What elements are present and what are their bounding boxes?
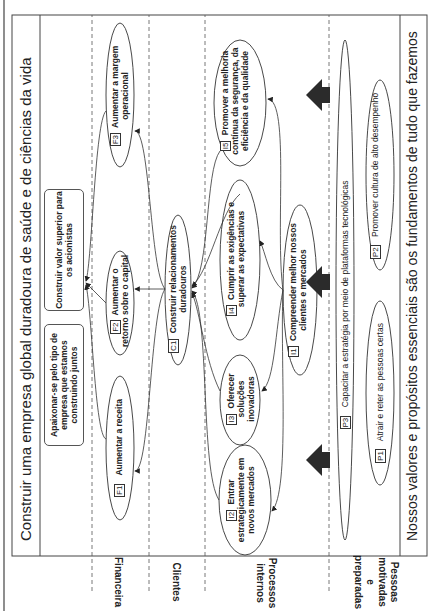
objective-i5: I5 Promover a melhoria contínua da segur… [220, 41, 250, 161]
vision-box-passion-text: Apaixonar-se pelo tipo de empresa que es… [49, 325, 79, 445]
objective-code: F1 [114, 484, 125, 497]
objective-text: Compreender melhor nossos clientes e mer… [288, 223, 308, 341]
objective-p3: P3 Capacitar a estratégia por meio de pl… [340, 75, 350, 535]
perspective-pessoas: Pessoas motivadas e preparadas [352, 555, 400, 609]
objective-code: I5 [220, 141, 231, 152]
objective-text: Atrair e reter as pessoas certas [375, 323, 385, 441]
objective-f1: F1 Aumentar a receita [114, 385, 124, 511]
page-title: Construir uma empresa global duradoura d… [17, 57, 34, 541]
objective-text: Cumprir as exigências e superar as expec… [226, 202, 246, 307]
objective-text: Aumentar a margem operacional [110, 46, 130, 128]
objective-f3: F3 Aumentar a margem operacional [110, 36, 130, 156]
vision-box-passion: Apaixonar-se pelo tipo de empresa que es… [44, 324, 84, 446]
perspective-processos-internos: Processos internos [254, 555, 278, 611]
big-arrow-icon [306, 79, 330, 111]
objective-text: Capacitar a estratégia por meio de plata… [340, 181, 350, 408]
objective-code: C1 [168, 339, 179, 353]
objective-i1: I1 Compreender melhor nossos clientes e … [288, 209, 308, 371]
objective-c1: C1 Construir relacionamentos duradouros [168, 219, 188, 359]
objective-text: Construir relacionamentos duradouros [168, 225, 188, 333]
objective-code: F2 [110, 320, 121, 333]
objective-code: I2 [226, 510, 237, 521]
objective-i2: I2 Entrar estrategicamente em novos merc… [226, 449, 256, 551]
objective-code: P2 [370, 245, 381, 259]
footer-values: Nossos valores e propósitos essenciais s… [404, 31, 420, 541]
vision-box-shareholder-value: Construir valor superior para os acionis… [44, 189, 84, 311]
objective-text: Entrar estrategicamente em novos mercado… [226, 458, 256, 543]
perspective-financeira: Financeira [112, 557, 124, 607]
objective-code: I1 [288, 346, 299, 357]
objective-f2: F2 Aumentar o retorno sobre o capital [110, 253, 130, 349]
objective-text: Promover cultura de alto desempenho [370, 93, 380, 237]
objective-text: Promover a melhoria contínua da seguranç… [220, 47, 250, 154]
objective-p2: P2 Promover cultura de alto desempenho [370, 91, 380, 261]
objective-p1: P1 Atrair e reter as pessoas certas [375, 305, 385, 481]
strategy-map: Construir uma empresa global duradoura d… [0, 0, 440, 611]
objective-code: I4 [226, 305, 237, 316]
objective-text: Aumentar a receita [114, 399, 124, 476]
objective-code: P3 [340, 416, 351, 430]
objective-code: I3 [226, 414, 237, 425]
perspective-clientes: Clientes [170, 557, 182, 607]
objective-i4: I4 Cumprir as exigências e superar as ex… [226, 189, 246, 329]
big-arrow-icon [306, 444, 330, 476]
objective-code: P1 [375, 449, 386, 463]
objective-i3: I3 Oferecer soluções inovadoras [226, 357, 256, 441]
objective-code: F3 [110, 133, 121, 146]
vision-box-shareholder-value-text: Construir valor superior para os acionis… [54, 190, 74, 310]
